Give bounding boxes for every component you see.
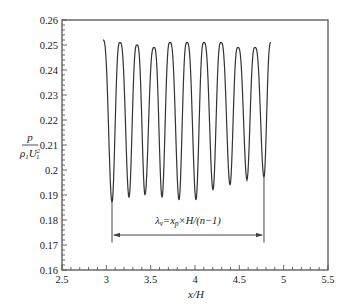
chart: 0.160.170.180.190.20.210.220.230.240.250… xyxy=(0,0,346,306)
y-axis-label: p ρ1U21 xyxy=(19,131,41,161)
y-tick-label: 0.18 xyxy=(40,215,58,226)
y-tick-label: 0.21 xyxy=(40,140,58,151)
y-axis-ticks xyxy=(62,20,67,270)
y-tick-label: 0.23 xyxy=(40,90,58,101)
y-tick-label: 0.17 xyxy=(40,240,58,251)
y-tick-label: 0.2 xyxy=(45,165,58,176)
y-tick-label: 0.26 xyxy=(40,15,58,26)
x-tick-label: 3.5 xyxy=(144,274,157,285)
x-axis-ticks xyxy=(62,265,328,270)
annotation-formula: λv=xp×H/(n−1) xyxy=(154,215,221,228)
plot-frame xyxy=(62,20,328,270)
y-axis-tick-labels: 0.160.170.180.190.20.210.220.230.240.250… xyxy=(40,15,59,276)
wavelength-annotation: λv=xp×H/(n−1) xyxy=(112,178,264,243)
x-tick-label: 2.5 xyxy=(55,274,68,285)
svg-text:p: p xyxy=(26,131,33,143)
x-axis-label: x/H xyxy=(187,288,205,300)
y-tick-label: 0.24 xyxy=(40,65,59,76)
y-tick-label: 0.22 xyxy=(40,115,58,126)
arrow-head-left-icon xyxy=(113,233,120,237)
x-axis-tick-labels: 2.533.544.555.5 xyxy=(55,274,334,285)
arrow-head-right-icon xyxy=(256,233,263,237)
y-tick-label: 0.19 xyxy=(40,190,58,201)
x-tick-label: 4.5 xyxy=(233,274,246,285)
x-tick-label: 5.5 xyxy=(321,274,334,285)
svg-text:ρ1U21: ρ1U21 xyxy=(19,147,41,161)
pressure-curve xyxy=(103,40,271,203)
y-tick-label: 0.25 xyxy=(40,40,58,51)
x-tick-label: 3 xyxy=(104,274,109,285)
x-tick-label: 5 xyxy=(281,274,286,285)
x-tick-label: 4 xyxy=(192,274,198,285)
